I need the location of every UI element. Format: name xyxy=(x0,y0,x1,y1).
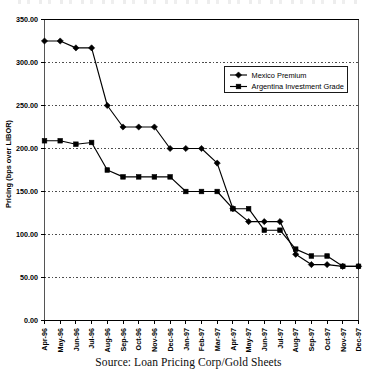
y-tick-label: 350.00 xyxy=(16,15,38,24)
data-point-marker xyxy=(199,189,204,194)
x-tick-label: Aug-97 xyxy=(291,328,300,352)
source-caption: Source: Loan Pricing Corp/Gold Sheets xyxy=(0,356,377,368)
x-tick-label: Apr-96 xyxy=(40,328,49,351)
data-point-marker xyxy=(136,124,142,130)
x-tick-label: Jul-97 xyxy=(276,328,285,349)
x-tick-label: Jul-96 xyxy=(87,328,96,349)
legend-label: Argentina Investment Grade xyxy=(252,82,344,91)
x-tick-label: Dec-96 xyxy=(166,328,175,352)
x-tick-label: Feb-97 xyxy=(197,328,206,351)
data-point-marker xyxy=(309,254,314,259)
data-point-marker xyxy=(325,254,330,259)
data-point-marker xyxy=(58,138,63,143)
data-point-marker xyxy=(293,251,299,257)
data-point-marker xyxy=(277,219,283,225)
data-point-marker xyxy=(183,145,189,151)
x-tick-label: Apr-97 xyxy=(229,328,238,351)
data-point-marker xyxy=(293,247,298,252)
grid-lines xyxy=(45,63,359,278)
data-point-marker xyxy=(231,206,236,211)
data-point-marker xyxy=(168,175,173,180)
data-point-marker xyxy=(89,45,95,51)
y-tick-label: 250.00 xyxy=(16,101,38,110)
line-chart: 350.00300.00250.00200.00150.00100.0050.0… xyxy=(0,0,377,379)
data-point-marker xyxy=(261,219,267,225)
data-point-marker xyxy=(42,138,47,143)
chart-legend: Mexico PremiumArgentina Investment Grade xyxy=(225,67,348,93)
data-point-marker xyxy=(246,206,251,211)
x-axis-ticks: Apr-96May-96Jun-96Jul-96Aug-96Sep-96Oct-… xyxy=(40,321,363,353)
data-point-marker xyxy=(184,189,189,194)
x-tick-label: Jun-97 xyxy=(260,328,269,351)
data-point-marker xyxy=(215,189,220,194)
data-point-marker xyxy=(121,175,126,180)
x-tick-label: Aug-96 xyxy=(103,328,112,352)
data-point-marker xyxy=(105,168,110,173)
data-point-marker xyxy=(89,140,94,145)
legend-label: Mexico Premium xyxy=(252,71,307,80)
x-tick-label: Sep-97 xyxy=(307,328,316,352)
y-axis-title-text: Pricing (bps over LIBOR) xyxy=(4,120,13,208)
data-point-marker xyxy=(356,264,361,269)
y-tick-label: 0.00 xyxy=(24,316,38,325)
x-tick-label: Mar-97 xyxy=(213,328,222,351)
x-tick-label: Nov-96 xyxy=(150,328,159,352)
data-point-marker xyxy=(74,142,79,147)
y-tick-label: 300.00 xyxy=(16,58,38,67)
y-axis-title: Pricing (bps over LIBOR) xyxy=(4,120,13,208)
data-point-marker xyxy=(278,228,283,233)
chart-figure: 350.00300.00250.00200.00150.00100.0050.0… xyxy=(0,0,377,379)
x-tick-label: Jun-96 xyxy=(72,328,81,351)
series-argentina-investment-grade xyxy=(42,138,361,268)
x-tick-label: Nov-97 xyxy=(339,328,348,352)
data-point-marker xyxy=(236,84,241,89)
data-point-marker xyxy=(324,262,330,268)
x-tick-label: May-96 xyxy=(56,328,65,352)
data-point-marker xyxy=(341,264,346,269)
y-tick-label: 50.00 xyxy=(20,273,38,282)
x-tick-label: Jan-97 xyxy=(182,328,191,351)
data-point-marker xyxy=(136,175,141,180)
y-tick-label: 200.00 xyxy=(16,144,38,153)
data-point-marker xyxy=(152,175,157,180)
y-axis-ticks: 350.00300.00250.00200.00150.00100.0050.0… xyxy=(16,15,44,325)
data-point-marker xyxy=(262,228,267,233)
x-tick-label: Dec-97 xyxy=(354,328,363,352)
data-point-marker xyxy=(57,38,63,44)
series-line xyxy=(45,141,359,267)
x-tick-label: Sep-96 xyxy=(119,328,128,352)
x-tick-label: May-97 xyxy=(244,328,253,352)
data-point-marker xyxy=(308,262,314,268)
y-tick-label: 100.00 xyxy=(16,230,38,239)
y-tick-label: 150.00 xyxy=(16,187,38,196)
x-tick-label: Oct-96 xyxy=(134,328,143,350)
x-tick-label: Oct-97 xyxy=(323,328,332,350)
data-point-marker xyxy=(41,38,47,44)
data-point-marker xyxy=(73,45,79,51)
plot-frame xyxy=(45,20,359,321)
